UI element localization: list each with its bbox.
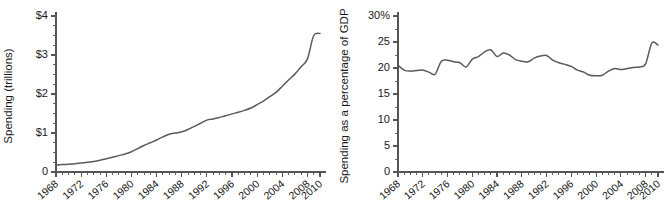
y-tick-label: 25 (378, 35, 390, 47)
y-tick-label: 15 (378, 87, 390, 99)
y-axis-title-text-right: Spending as a percentage of GDP (338, 8, 350, 184)
x-tick-label: 1972 (60, 177, 86, 201)
x-tick-label: 1988 (160, 177, 186, 201)
x-tick-label: 1984 (135, 177, 161, 201)
chart-svg-right: Spending as a percentage of GDP 30%25201… (336, 0, 672, 208)
x-tick-label: 2000 (575, 177, 601, 201)
chart-panel-spending-trillions: Spending (trillions) $4$3$2$10 196819721… (0, 0, 336, 208)
chart-panel-spending-pct-gdp: Spending as a percentage of GDP 30%25201… (336, 0, 672, 208)
x-tick-label: 1996 (550, 177, 576, 201)
data-series-line-left (56, 33, 320, 165)
x-tick-label: 1968 (377, 177, 403, 201)
x-tick-label: 2004 (261, 177, 287, 201)
x-tick-label: 2000 (236, 177, 262, 201)
data-series-line-right (398, 42, 658, 76)
y-tick-label: 20 (378, 61, 390, 73)
dual-line-chart-figure: Spending (trillions) $4$3$2$10 196819721… (0, 0, 672, 208)
x-tick-label: 1988 (500, 177, 526, 201)
y-tick-label: 5 (384, 139, 390, 151)
x-tick-labels-right: 1968197219761980198419881992199620002004… (377, 177, 663, 201)
x-tick-label: 1992 (525, 177, 551, 201)
y-tick-label: 0 (42, 165, 48, 177)
x-tick-label: 1992 (186, 177, 212, 201)
x-tick-label: 2004 (600, 177, 626, 201)
axis-lines-left (51, 12, 326, 177)
y-tick-label: 0 (384, 165, 390, 177)
y-tick-label: $2 (36, 87, 48, 99)
x-tick-label: 1968 (35, 177, 61, 201)
y-tick-label: 30% (368, 9, 390, 21)
x-tick-label: 1980 (451, 177, 477, 201)
x-tick-label: 1984 (476, 177, 502, 201)
y-tick-labels-left: $4$3$2$10 (36, 9, 48, 177)
y-axis-title-text-left: Spending (trillions) (2, 48, 14, 143)
x-tick-label: 1976 (426, 177, 452, 201)
y-tick-label: 10 (378, 113, 390, 125)
x-tick-label: 1980 (110, 177, 136, 201)
chart-svg-left: Spending (trillions) $4$3$2$10 196819721… (0, 0, 336, 208)
x-tick-labels-left: 1968197219761980198419881992199620002004… (35, 177, 325, 201)
x-tick-label: 1976 (85, 177, 111, 201)
axis-lines-right (393, 12, 664, 177)
y-axis-title-right: Spending as a percentage of GDP (338, 8, 350, 184)
x-tick-label: 1972 (401, 177, 427, 201)
y-tick-labels-right: 30%2520151050 (368, 9, 390, 177)
y-tick-label: $1 (36, 126, 48, 138)
y-axis-title-left: Spending (trillions) (2, 48, 14, 143)
y-tick-label: $4 (36, 9, 48, 21)
y-tick-label: $3 (36, 48, 48, 60)
x-tick-label: 1996 (211, 177, 237, 201)
